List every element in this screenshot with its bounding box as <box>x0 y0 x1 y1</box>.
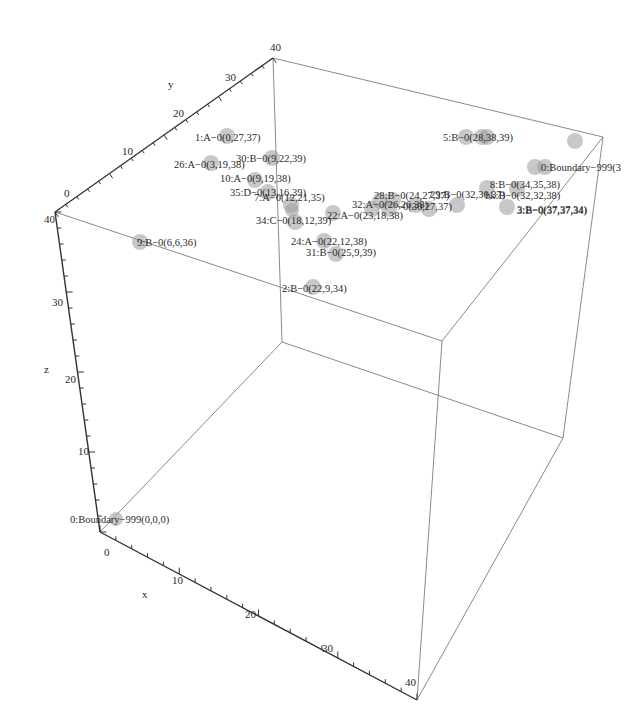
data-point-label: 30:B−0(9,22,39) <box>236 153 307 165</box>
y-tick <box>262 66 264 69</box>
y-tick <box>164 135 167 140</box>
y-tick <box>77 197 79 200</box>
box-edge-left-bottom <box>100 342 282 532</box>
box-edge-top-back <box>273 58 603 137</box>
box-edge-top-front <box>55 212 442 341</box>
data-point-label: 34:C−0(18,12,39) <box>256 215 332 227</box>
x-tick-label: 20 <box>245 608 257 620</box>
y-tick <box>153 143 155 146</box>
data-point-label: 5:B−0(28,38,39) <box>443 132 514 144</box>
y-tick <box>66 204 68 207</box>
y-tick <box>142 150 144 153</box>
box-edge-right-bottom <box>417 438 563 700</box>
data-point-marker <box>499 199 515 215</box>
y-tick <box>131 158 133 161</box>
z-tick-label: 10 <box>78 445 90 457</box>
scatter3d-plot: 01020304001020304040302010 xyz 0:Boundar… <box>0 0 633 719</box>
data-point-label: bk:B−0(32,32,38) <box>485 190 561 202</box>
y-tick <box>240 81 242 84</box>
y-tick <box>197 112 199 115</box>
x-axis-label: x <box>142 588 148 600</box>
data-point-label: 1:A−0(0,27,37) <box>195 132 261 144</box>
x-tick-label: 0 <box>104 546 110 558</box>
y-tick-label: 40 <box>270 41 282 53</box>
data-point-label: 31:B−0(25,9,39) <box>306 247 377 259</box>
data-point-label: 26:A−0(3,19,38) <box>174 159 245 171</box>
data-point-label: 22:A−0(23,18,38) <box>327 210 403 222</box>
data-point-label: 35:D−0(13,16,39) <box>230 187 306 199</box>
y-tick <box>208 104 210 107</box>
x-tick-label: 10 <box>172 574 184 586</box>
data-point-marker <box>567 133 583 149</box>
data-point-label: 3:B−0(37,37,34) <box>517 205 588 217</box>
z-axis-label: z <box>44 363 49 375</box>
box-edge-back-bottom <box>282 342 563 438</box>
data-point-label: −0(30,27,37) <box>397 201 452 213</box>
data-point-label: 0:Boundary−999(3 <box>541 162 621 174</box>
box-edge-right-front-vertical <box>417 341 442 700</box>
y-tick <box>219 97 222 102</box>
point-labels: 0:Boundary−999(0,0,0)0:Boundary−999(31:A… <box>70 132 621 526</box>
data-point-label: 2:B−0(22,9,34) <box>282 283 347 295</box>
data-point-label: 10:A−0(9,19,38) <box>220 173 291 185</box>
data-point-label: 0:Boundary−999(0,0,0) <box>70 514 170 526</box>
y-tick <box>120 166 122 169</box>
y-tick-label: 30 <box>225 71 237 83</box>
x-tick-label: 30 <box>322 642 334 654</box>
x-tick-label: 40 <box>405 676 417 688</box>
z-tick-label: 30 <box>52 296 64 308</box>
data-point-label: 9:B−0(6,6,36) <box>137 237 197 249</box>
y-tick-label: 10 <box>122 145 134 157</box>
y-axis-label: y <box>168 78 174 90</box>
y-tick <box>186 120 188 123</box>
y-tick <box>229 89 231 92</box>
z-tick-label: 20 <box>65 373 77 385</box>
y-tick <box>175 127 177 130</box>
y-tick <box>99 181 101 184</box>
y-tick <box>110 174 113 179</box>
y-tick-label: 0 <box>64 187 70 199</box>
z-tick-label: 40 <box>44 213 56 225</box>
y-tick-label: 20 <box>173 107 185 119</box>
box-edge-right-back-vertical <box>563 137 603 438</box>
y-tick <box>88 189 90 192</box>
y-tick <box>251 73 253 76</box>
